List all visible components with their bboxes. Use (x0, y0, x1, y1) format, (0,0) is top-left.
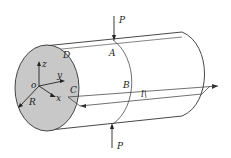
label-origin: o (31, 80, 37, 90)
force-bottom (110, 123, 114, 148)
label-point-c: C (70, 85, 77, 95)
label-point-a: A (108, 48, 116, 58)
label-force-top: P (118, 15, 126, 25)
label-axis-z: z (41, 59, 47, 69)
label-length: l (141, 89, 144, 99)
force-top (112, 16, 116, 41)
label-axis-x: x (56, 93, 61, 103)
label-radius: R (28, 97, 36, 107)
label-axis-y: y (56, 70, 63, 80)
label-point-b: B (122, 80, 130, 90)
label-point-d: D (62, 50, 70, 60)
length-arrow-left-icon (80, 104, 86, 108)
force-top-arrow-icon (112, 35, 116, 41)
cylinder-diagram: P P A B C D o x y z R l (0, 0, 231, 158)
label-force-bottom: P (116, 141, 124, 151)
length-arrow-right-icon (212, 84, 218, 89)
